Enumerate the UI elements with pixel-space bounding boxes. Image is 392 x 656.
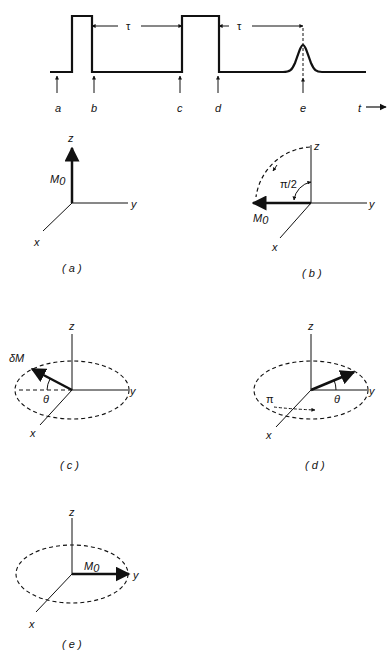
svg-text:x: x [33, 236, 40, 248]
svg-text:z: z [68, 506, 75, 518]
svg-text:y: y [368, 385, 376, 397]
caption-d: ( d ) [305, 459, 325, 471]
caption-a: ( a ) [62, 262, 82, 274]
marker-a: a [55, 102, 61, 114]
svg-text:y: y [368, 198, 376, 210]
svg-text:y: y [129, 385, 137, 397]
svg-text:x: x [265, 429, 272, 441]
panel-b: z y x π/2 M0 ( b ) [253, 140, 376, 279]
panel-c: z y x δM θ ( c ) [9, 320, 137, 471]
m-vector [311, 372, 354, 390]
caption-e: ( e ) [62, 638, 82, 650]
pulse-sequence: τ τ a b c d e t [50, 16, 386, 114]
svg-text:z: z [307, 320, 314, 332]
svg-text:π: π [266, 393, 274, 405]
svg-text:θ: θ [43, 393, 49, 405]
svg-text:θ: θ [334, 393, 340, 405]
panel-d: z y x π θ ( d ) [254, 320, 376, 471]
svg-text:y: y [130, 198, 138, 210]
svg-text:M0: M0 [253, 212, 269, 226]
panel-a: z y x M0 ( a ) [33, 132, 138, 274]
caption-c: ( c ) [60, 459, 79, 471]
marker-d: d [215, 102, 222, 114]
tau-label-2: τ [237, 20, 242, 32]
svg-text:M0: M0 [50, 173, 66, 187]
svg-text:M0: M0 [84, 560, 100, 574]
tau-label-1: τ [126, 20, 131, 32]
time-axis-label: t [358, 102, 362, 114]
svg-text:x: x [29, 427, 36, 439]
caption-b: ( b ) [302, 267, 322, 279]
delta-m-vector [32, 369, 72, 390]
marker-e: e [300, 102, 306, 114]
svg-text:z: z [313, 140, 320, 152]
svg-text:δM: δM [9, 352, 25, 364]
marker-c: c [177, 102, 183, 114]
svg-text:x: x [271, 241, 278, 253]
pulse-waveform [50, 16, 366, 72]
svg-text:y: y [132, 569, 140, 581]
svg-text:x: x [28, 618, 35, 630]
svg-text:z: z [67, 132, 74, 144]
panel-e: z y x M0 ( e ) [16, 506, 140, 650]
marker-b: b [91, 102, 97, 114]
svg-text:π/2: π/2 [280, 178, 297, 190]
svg-text:z: z [68, 320, 75, 332]
